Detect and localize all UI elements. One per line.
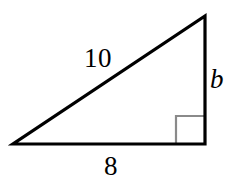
base-leg-length-label: 8 bbox=[104, 153, 118, 180]
hypotenuse-length-label: 10 bbox=[84, 45, 112, 72]
vertical-leg-variable-label: b bbox=[210, 66, 224, 93]
right-angle-marker-icon bbox=[176, 116, 204, 145]
triangle-drawing bbox=[0, 0, 236, 186]
right-triangle-figure: 10 b 8 bbox=[0, 0, 236, 186]
